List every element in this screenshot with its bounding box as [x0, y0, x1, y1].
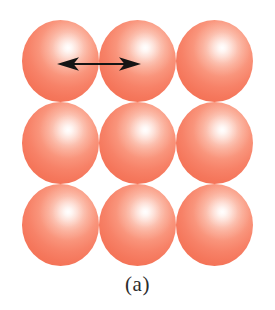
atom-row3-col3 [176, 184, 253, 266]
atom-row3-col1 [22, 184, 99, 266]
atom-row2-col2 [99, 102, 176, 184]
atom-row2-col3 [176, 102, 253, 184]
atom-row1-col3 [176, 20, 253, 102]
atom-row2-col1 [22, 102, 99, 184]
figure-canvas: (a) [0, 0, 275, 310]
atom-row3-col2 [99, 184, 176, 266]
figure-caption: (a) [0, 272, 275, 297]
interatomic-distance-double-arrow-icon [53, 52, 145, 76]
